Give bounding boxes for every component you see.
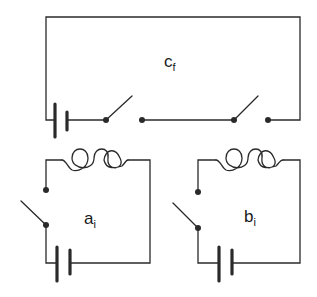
circuit-c xyxy=(46,17,300,137)
wire-b-right xyxy=(232,160,300,263)
label-a: ai xyxy=(84,210,96,230)
wire-a-right xyxy=(70,160,150,263)
circuit-b xyxy=(173,149,300,281)
label-c-main: c xyxy=(164,52,173,71)
battery-b-icon xyxy=(219,247,232,281)
label-b: bi xyxy=(244,208,256,228)
wire-a-bottom-left xyxy=(46,225,57,263)
switch-c1-icon xyxy=(103,96,145,123)
switch-b-icon xyxy=(173,189,201,231)
label-a-sub: i xyxy=(93,218,95,230)
battery-c-icon xyxy=(55,104,67,137)
coil-a-icon xyxy=(62,149,128,171)
switch-a-icon xyxy=(21,187,49,228)
circuit-diagram xyxy=(0,0,317,297)
wire-b-bottom-left xyxy=(198,228,219,263)
switch-c2-icon xyxy=(231,96,271,123)
battery-a-icon xyxy=(57,247,70,281)
label-c-sub: f xyxy=(173,61,176,73)
coil-b-icon xyxy=(216,149,283,171)
wire-a-top-left xyxy=(46,160,62,190)
label-b-sub: i xyxy=(253,216,255,228)
label-c: cf xyxy=(164,53,176,73)
wire-b-top-left xyxy=(198,160,216,192)
